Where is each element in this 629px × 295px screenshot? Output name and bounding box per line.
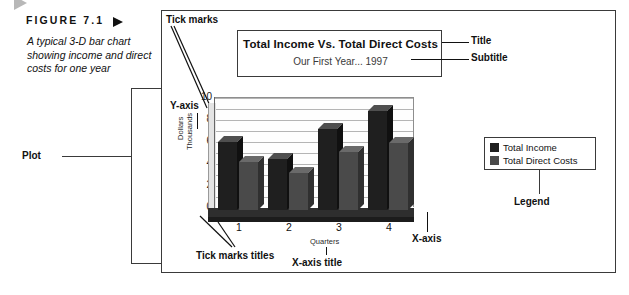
x-tick-label: 1	[219, 221, 259, 233]
subtitle-leader-line	[411, 59, 469, 60]
legend: Total IncomeTotal Direct Costs	[484, 137, 596, 170]
title-leader-line	[442, 42, 469, 43]
x-axis-leader-line	[427, 212, 428, 232]
legend-callout-label: Legend	[514, 196, 550, 207]
x-axis-title-callout-label: X-axis title	[292, 257, 342, 268]
bar-chart: 1086420 1234	[188, 95, 424, 230]
legend-label: Total Direct Costs	[503, 155, 577, 166]
legend-leader-line	[539, 170, 540, 194]
bar-face	[289, 173, 308, 210]
bar-face	[368, 111, 387, 210]
bar-face	[218, 142, 237, 210]
bar-side-face	[358, 146, 364, 210]
bars-layer	[214, 97, 414, 218]
bar-face	[318, 129, 337, 210]
bar-total-direct-costs-q3	[339, 152, 358, 210]
bar-total-income-q3	[318, 129, 337, 210]
bar-face	[339, 152, 358, 210]
bar-total-income-q1	[218, 142, 237, 210]
x-tick-label: 2	[269, 221, 309, 233]
figure-page: FIGURE 7.1 A typical 3-D bar chart showi…	[0, 0, 629, 295]
x-tick-label: 3	[319, 221, 359, 233]
legend-item: Total Income	[490, 142, 557, 153]
bar-face	[268, 159, 287, 210]
legend-swatch-icon	[490, 156, 499, 165]
bar-side-face	[408, 137, 414, 210]
bar-face	[389, 143, 408, 210]
x-axis-title: Quarters	[310, 237, 339, 246]
legend-item: Total Direct Costs	[490, 155, 577, 166]
y-axis-title-line1: Dollars	[176, 117, 185, 140]
bar-total-direct-costs-q2	[289, 173, 308, 210]
legend-swatch-icon	[490, 143, 499, 152]
chart-title: Total Income Vs. Total Direct Costs	[238, 38, 443, 50]
chart-subtitle: Our First Year... 1997	[238, 56, 443, 67]
tick-marks-callout-label: Tick marks	[166, 14, 218, 25]
tick-marks-titles-callout-label: Tick marks titles	[196, 250, 274, 261]
triangle-right-icon	[113, 17, 123, 27]
bar-total-direct-costs-q1	[239, 162, 258, 210]
bar-side-face	[308, 167, 314, 210]
bar-side-face	[258, 156, 264, 210]
plot-leader-line	[62, 156, 131, 157]
plot-callout-label: Plot	[22, 150, 41, 161]
decorative-arrow-icon	[14, 0, 27, 10]
legend-label: Total Income	[503, 142, 557, 153]
subtitle-callout-label: Subtitle	[471, 52, 508, 63]
bar-total-income-q2	[268, 159, 287, 210]
y-tick-label: 10	[190, 91, 212, 102]
x-axis-title-leader-line	[326, 247, 327, 255]
title-callout-label: Title	[471, 35, 491, 46]
chart-title-box: Total Income Vs. Total Direct Costs Our …	[237, 30, 442, 77]
bar-total-income-q4	[368, 111, 387, 210]
bar-face	[239, 162, 258, 210]
figure-number-label: FIGURE 7.1	[26, 14, 104, 26]
x-tick-label: 4	[369, 221, 409, 233]
x-axis-callout-label: X-axis	[412, 233, 441, 244]
bar-total-direct-costs-q4	[389, 143, 408, 210]
figure-caption: A typical 3-D bar chart showing income a…	[27, 35, 152, 76]
